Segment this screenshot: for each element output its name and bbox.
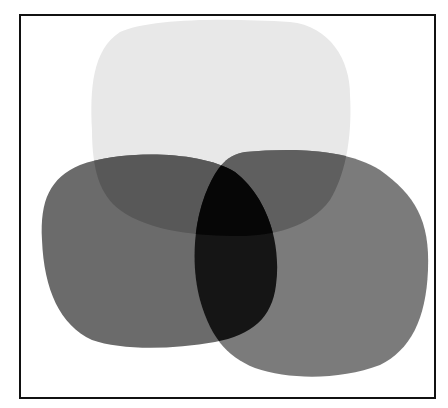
venn-diagram (0, 0, 448, 408)
